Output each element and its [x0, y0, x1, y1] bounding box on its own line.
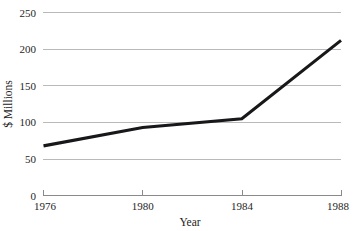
y-tick-label-100: 100 — [20, 116, 37, 128]
y-tick-label-200: 200 — [20, 43, 37, 55]
x-tick-label-1984: 1984 — [231, 200, 254, 212]
y-tick-label-150: 150 — [20, 80, 37, 92]
chart-background — [0, 0, 358, 231]
line-chart: 250 200 150 100 50 0 1976 1980 1984 1988… — [0, 0, 358, 231]
x-axis-title: Year — [179, 216, 200, 228]
x-tick-label-1980: 1980 — [132, 200, 155, 212]
chart-canvas: 250 200 150 100 50 0 1976 1980 1984 1988… — [0, 0, 358, 231]
y-axis-title: $ Millions — [2, 80, 14, 128]
x-tick-label-1976: 1976 — [34, 200, 57, 212]
x-tick-label-1988: 1988 — [327, 200, 350, 212]
y-tick-label-250: 250 — [20, 7, 37, 19]
y-tick-label-50: 50 — [25, 153, 37, 165]
